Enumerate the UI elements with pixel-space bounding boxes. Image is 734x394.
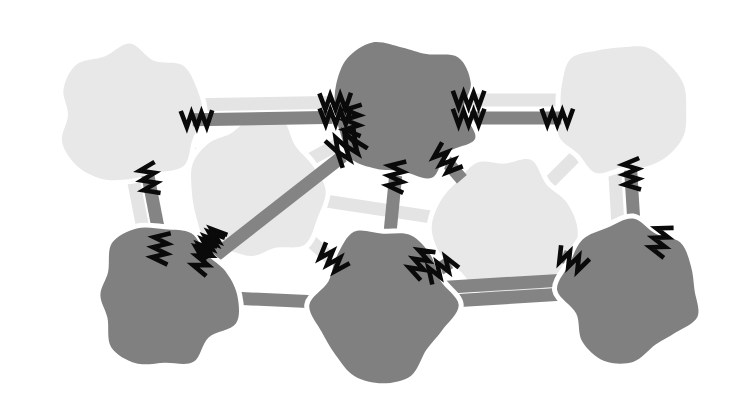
diagram-canvas (0, 0, 734, 394)
edge-light-tl-to-dark-tc-upper[interactable] (192, 102, 339, 105)
edge-light-tl-to-dark-tc-lower[interactable] (193, 117, 340, 120)
edge-dark-br-to-dark-bc-low[interactable] (446, 280, 567, 287)
network-graph (0, 0, 734, 394)
edge-dark-bc-to-dark-br[interactable] (447, 294, 568, 301)
